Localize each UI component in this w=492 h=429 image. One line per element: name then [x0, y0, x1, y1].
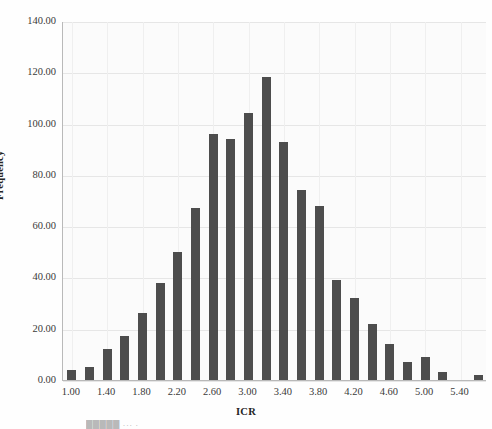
bar	[138, 313, 147, 380]
gridline-vertical	[390, 22, 391, 380]
bar	[368, 324, 377, 380]
x-axis-title: ICR	[0, 406, 492, 417]
plot-area	[62, 22, 486, 381]
gridline-horizontal	[63, 227, 486, 228]
bar	[315, 206, 324, 380]
bar	[262, 77, 271, 380]
x-axis-tick-label: 1.00	[51, 386, 91, 397]
bar	[156, 283, 165, 380]
gridline-horizontal	[63, 125, 486, 126]
gridline-horizontal	[63, 278, 486, 279]
bar	[85, 367, 94, 380]
x-axis-tick-label: 3.00	[228, 386, 268, 397]
x-axis-tick-label: 4.60	[369, 386, 409, 397]
x-axis-tick-label: 5.40	[440, 386, 480, 397]
bar	[350, 298, 359, 380]
bar	[438, 372, 447, 380]
x-axis-tick-label: 3.40	[263, 386, 303, 397]
gridline-horizontal	[63, 73, 486, 74]
bar	[244, 113, 253, 380]
y-axis-tick-label: 100.00	[0, 118, 56, 129]
bar	[474, 375, 483, 380]
gridline-horizontal	[63, 381, 486, 382]
gridline-vertical	[461, 22, 462, 380]
y-axis-tick-label: 20.00	[0, 323, 56, 334]
gridline-vertical	[72, 22, 73, 380]
gridline-horizontal	[63, 22, 486, 23]
y-axis-tick-label: 60.00	[0, 220, 56, 231]
gridline-vertical	[425, 22, 426, 380]
x-axis-tick-label: 1.40	[86, 386, 126, 397]
gridline-vertical	[107, 22, 108, 380]
y-axis-title: Frequency	[0, 151, 5, 200]
y-axis-tick-label: 80.00	[0, 169, 56, 180]
bar	[103, 349, 112, 380]
gridline-horizontal	[63, 330, 486, 331]
x-axis-tick-label: 5.00	[404, 386, 444, 397]
y-axis-tick-label: 40.00	[0, 271, 56, 282]
x-axis-tick-label: 4.20	[334, 386, 374, 397]
x-axis-tick-label: 2.20	[157, 386, 197, 397]
bar	[279, 142, 288, 380]
bar	[173, 252, 182, 380]
bar	[191, 208, 200, 380]
x-axis-tick-label: 2.60	[192, 386, 232, 397]
bar	[297, 190, 306, 380]
gridline-horizontal	[63, 176, 486, 177]
histogram-figure: 0.0020.0040.0060.0080.00100.00120.00140.…	[0, 0, 492, 429]
y-axis-tick-label: 0.00	[0, 374, 56, 385]
x-axis-tick-label: 3.80	[298, 386, 338, 397]
bar	[421, 357, 430, 380]
x-axis-tick-label: 1.80	[122, 386, 162, 397]
figure-caption-fragment: █████ ··· ·	[86, 420, 326, 429]
bar	[209, 134, 218, 380]
y-axis-tick-label: 120.00	[0, 66, 56, 77]
bar	[120, 336, 129, 380]
bar	[226, 139, 235, 380]
bar	[403, 362, 412, 380]
y-axis-tick-label: 140.00	[0, 15, 56, 26]
bar	[332, 280, 341, 380]
bar	[67, 370, 76, 380]
bar	[385, 344, 394, 380]
